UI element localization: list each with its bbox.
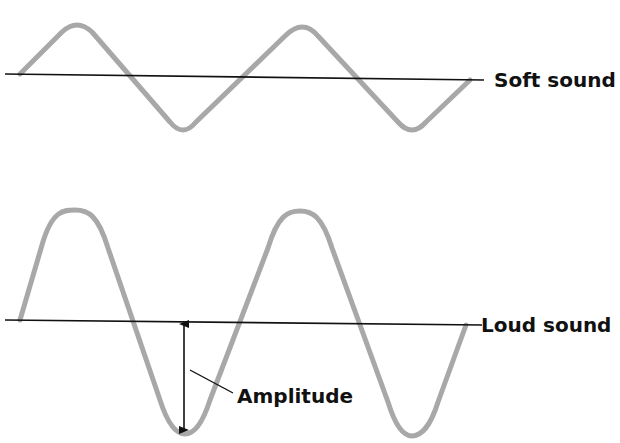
- loud-sound-baseline: [5, 320, 482, 325]
- sound-wave-diagram: Soft sound Loud sound Amplitude: [0, 0, 620, 443]
- soft-sound-label: Soft sound: [494, 68, 616, 92]
- amplitude-label: Amplitude: [237, 384, 353, 408]
- amplitude-annotation: Amplitude: [184, 324, 353, 430]
- soft-sound-group: Soft sound: [5, 25, 616, 130]
- loud-sound-label: Loud sound: [481, 313, 611, 337]
